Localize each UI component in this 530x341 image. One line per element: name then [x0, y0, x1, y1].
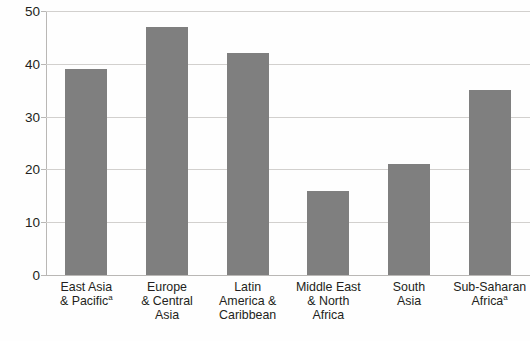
- bar: [307, 191, 349, 275]
- category-label: Europe& CentralAsia: [127, 280, 208, 323]
- gridline-20: [46, 169, 530, 170]
- category-label-line: & Pacifica: [46, 294, 127, 308]
- gridline-40: [46, 64, 530, 65]
- bar: [388, 164, 430, 275]
- category-label-line: Africaa: [449, 294, 530, 308]
- category-label-line: Asia: [369, 294, 450, 308]
- bar: [146, 27, 188, 275]
- bar-chart: 50403020100 East Asia& PacificaEurope& C…: [0, 0, 530, 341]
- category-label-line: Africa: [288, 308, 369, 322]
- plot-area: [46, 11, 530, 275]
- bar: [65, 69, 107, 275]
- x-axis-category-labels: East Asia& PacificaEurope& CentralAsiaLa…: [46, 280, 530, 338]
- category-label: East Asia& Pacifica: [46, 280, 127, 308]
- category-label: LatinAmerica &Caribbean: [207, 280, 288, 323]
- category-label: Sub-SaharanAfricaa: [449, 280, 530, 308]
- category-label-line: East Asia: [46, 280, 127, 294]
- category-label-line: Sub-Saharan: [449, 280, 530, 294]
- category-label-line: America &: [207, 294, 288, 308]
- category-label: SouthAsia: [369, 280, 450, 308]
- category-label-line: South: [369, 280, 450, 294]
- y-tick-label: 30: [8, 109, 40, 124]
- category-label-line: Caribbean: [207, 308, 288, 322]
- gridline-10: [46, 222, 530, 223]
- category-label-line: Europe: [127, 280, 208, 294]
- y-tick-label: 0: [8, 268, 40, 283]
- bar: [227, 53, 269, 275]
- category-label-line: & North: [288, 294, 369, 308]
- category-label-line: Asia: [127, 308, 208, 322]
- category-label-line: Latin: [207, 280, 288, 294]
- y-axis-ticks: 50403020100: [0, 11, 40, 275]
- bar: [469, 90, 511, 275]
- category-label-line: & Central: [127, 294, 208, 308]
- footnote-marker: a: [108, 293, 112, 302]
- footnote-marker: a: [503, 293, 507, 302]
- gridline-0: [46, 275, 530, 276]
- y-tick-label: 20: [8, 162, 40, 177]
- y-tick-label: 40: [8, 56, 40, 71]
- cutoff-title-strip: [0, 0, 530, 5]
- category-label-line: Middle East: [288, 280, 369, 294]
- gridline-50: [46, 11, 530, 12]
- category-label: Middle East& NorthAfrica: [288, 280, 369, 323]
- y-tick-label: 50: [8, 4, 40, 19]
- gridline-30: [46, 117, 530, 118]
- y-tick-label: 10: [8, 215, 40, 230]
